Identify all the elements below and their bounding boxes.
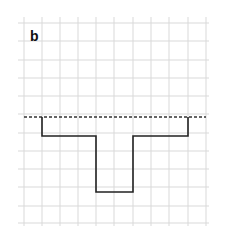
step-profile-line — [42, 117, 188, 192]
grid-lines — [18, 17, 209, 226]
panel-label: b — [30, 28, 39, 44]
